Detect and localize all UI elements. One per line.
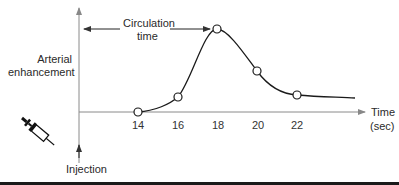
enhancement-curve (138, 29, 355, 112)
x-tick-20: 20 (252, 119, 264, 131)
x-tick-14: 14 (132, 119, 144, 131)
bottom-border (0, 182, 399, 185)
y-axis-label-line2: enhancement (8, 66, 75, 79)
circulation-label-line1: Circulation (123, 17, 175, 30)
y-axis-label-line1: Arterial (18, 53, 72, 66)
x-tick-22: 22 (291, 119, 303, 131)
syringe-icon (19, 114, 58, 149)
data-point-markers (134, 25, 301, 116)
x-tick-18: 18 (212, 119, 224, 131)
enhancement-curve-chart (0, 0, 399, 185)
injection-label: Injection (66, 163, 107, 176)
x-axis-label-line2: (sec) (370, 120, 394, 133)
x-axis-label-line1: Time (371, 106, 395, 119)
y-axis-label: Arterial (18, 53, 72, 66)
circulation-label-line2: time (137, 30, 158, 43)
x-tick-16: 16 (172, 119, 184, 131)
